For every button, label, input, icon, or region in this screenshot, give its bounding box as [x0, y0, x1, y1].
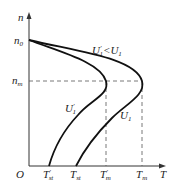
x-tick-tm-prime: T'm — [100, 168, 111, 182]
torque-speed-diagram: n T O n0 nm T'st Tst T'm Tm U'1 U1 U'1<U… — [0, 0, 183, 192]
svg-text:T'st: T'st — [43, 168, 54, 182]
origin-label: O — [16, 168, 24, 180]
x-axis-label: T — [160, 168, 167, 180]
x-tick-tm: Tm — [136, 168, 147, 182]
curve-u1 — [29, 40, 143, 166]
y-tick-nm: nm — [12, 74, 23, 88]
svg-text:n0: n0 — [14, 34, 24, 48]
y-axis-label: n — [18, 11, 24, 23]
svg-text:T'm: T'm — [100, 168, 111, 182]
comparison-annotation: U'1<U1 — [92, 44, 122, 58]
svg-text:U'1<U1: U'1<U1 — [92, 44, 122, 58]
y-axis-arrow-icon — [27, 12, 32, 19]
curve-label-u1: U1 — [120, 109, 131, 123]
x-tick-tst: Tst — [70, 168, 82, 182]
svg-text:U1: U1 — [120, 109, 131, 123]
y-tick-n0: n0 — [14, 34, 24, 48]
x-tick-tst-prime: T'st — [43, 168, 54, 182]
svg-text:Tm: Tm — [136, 168, 147, 182]
curve-label-u1-prime: U'1 — [65, 102, 76, 116]
svg-text:nm: nm — [12, 74, 23, 88]
svg-text:U'1: U'1 — [65, 102, 76, 116]
svg-text:Tst: Tst — [70, 168, 82, 182]
